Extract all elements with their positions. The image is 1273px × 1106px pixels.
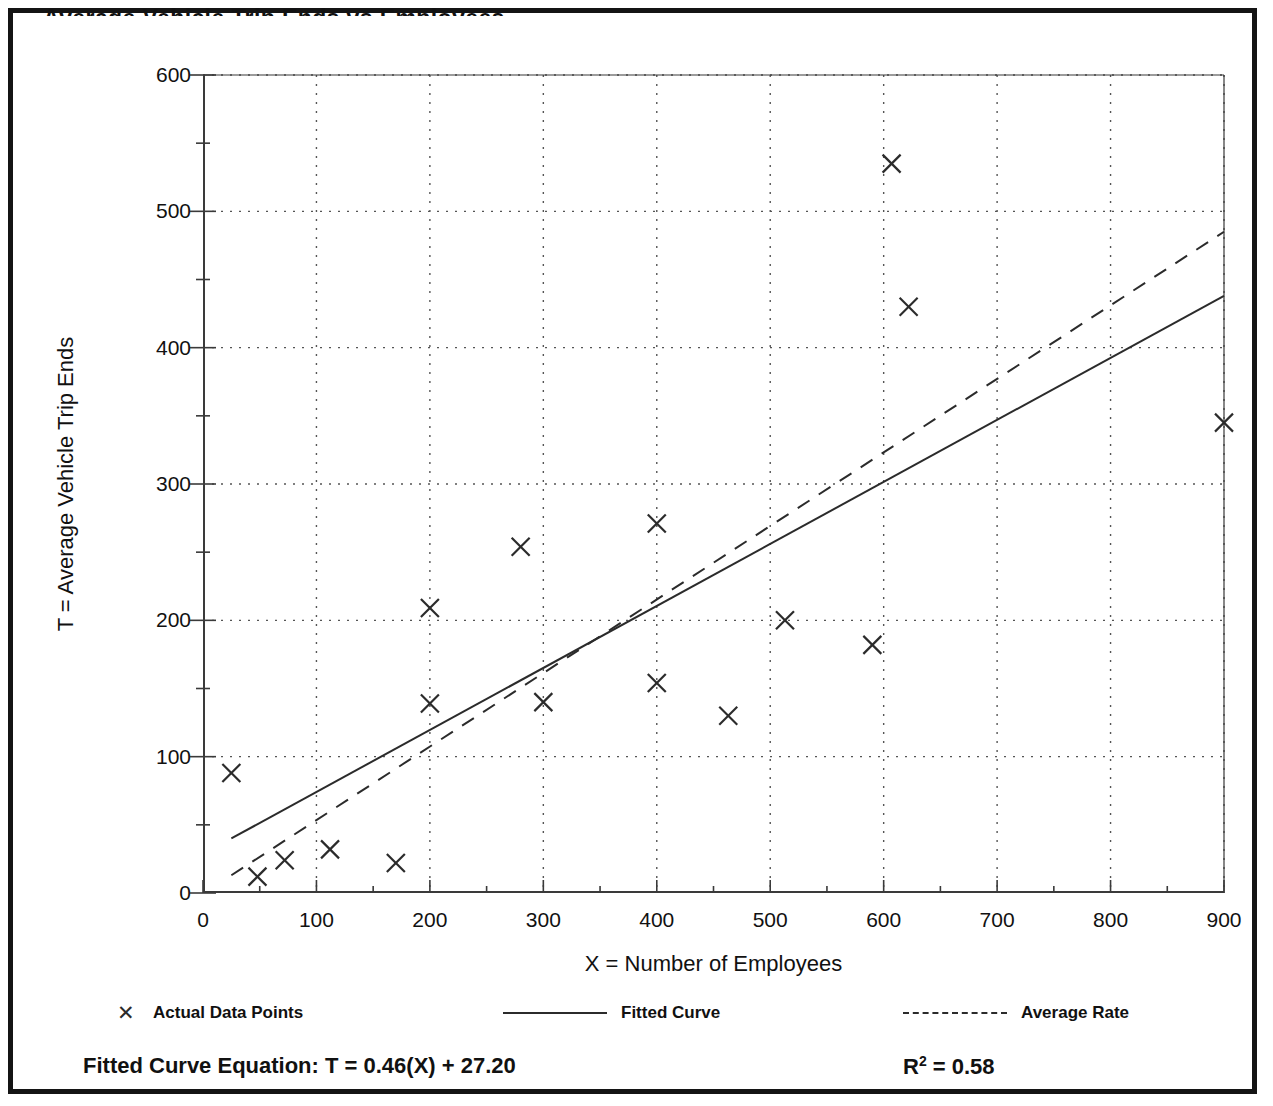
footer-row: Fitted Curve Equation: T = 0.46(X) + 27.… <box>83 1053 1223 1087</box>
y-axis-tick-label: 400 <box>156 336 191 360</box>
x-axis-tick-label: 300 <box>526 908 561 932</box>
x-axis-tick-label: 500 <box>753 908 788 932</box>
x-marker-icon: ✕ <box>113 1004 139 1022</box>
legend-item-label: Actual Data Points <box>153 1003 303 1023</box>
chart-page: Average Vehicle Trip Ends vs Employees T… <box>0 0 1273 1106</box>
data-point-marker <box>534 693 552 711</box>
legend-item[interactable]: ✕Actual Data Points <box>113 998 303 1028</box>
data-point-marker <box>321 840 339 858</box>
x-axis-tick-labels: 0100200300400500600700800900 <box>203 908 1224 936</box>
data-point-marker <box>776 611 794 629</box>
y-axis-tick-label: 100 <box>156 745 191 769</box>
data-point-marker <box>222 764 240 782</box>
x-axis-tick-label: 800 <box>1093 908 1128 932</box>
x-axis-tick-label: 600 <box>866 908 901 932</box>
dashed-line-icon <box>903 1004 1007 1022</box>
data-point-marker <box>421 599 439 617</box>
r-squared-exponent: 2 <box>919 1053 927 1069</box>
x-axis-tick-label: 700 <box>980 908 1015 932</box>
y-axis-tick-label: 300 <box>156 472 191 496</box>
x-axis-tick-label: 900 <box>1206 908 1241 932</box>
r-squared-symbol: R <box>903 1054 919 1079</box>
data-point-marker <box>512 538 530 556</box>
data-point-marker <box>276 851 294 869</box>
y-axis-tick-label: 0 <box>179 881 191 905</box>
chart-legend: ✕Actual Data PointsFitted CurveAverage R… <box>113 998 1223 1028</box>
r-squared-value: R2 = 0.58 <box>903 1053 995 1080</box>
fitted-curve-line <box>231 296 1224 839</box>
x-axis-tick-label: 0 <box>197 908 209 932</box>
r-squared-number: = 0.58 <box>927 1054 995 1079</box>
data-point-marker <box>648 674 666 692</box>
y-axis-tick-label: 200 <box>156 608 191 632</box>
x-axis-tick-label: 100 <box>299 908 334 932</box>
legend-item[interactable]: Average Rate <box>903 998 1129 1028</box>
x-axis-tick-label: 400 <box>639 908 674 932</box>
y-axis-tick-label: 600 <box>156 63 191 87</box>
data-point-marker <box>387 854 405 872</box>
x-axis-title: X = Number of Employees <box>203 951 1224 977</box>
fitted-curve-equation: Fitted Curve Equation: T = 0.46(X) + 27.… <box>83 1053 516 1079</box>
y-axis-title: T = Average Vehicle Trip Ends <box>51 75 81 893</box>
trend-lines-group <box>231 232 1224 875</box>
data-point-marker <box>900 298 918 316</box>
data-point-marker <box>883 155 901 173</box>
clipped-figure-title-text: Average Vehicle Trip Ends vs Employees <box>43 7 1273 16</box>
clipped-figure-title: Average Vehicle Trip Ends vs Employees <box>13 7 1273 16</box>
x-axis-tick-label: 200 <box>412 908 447 932</box>
data-point-marker <box>863 636 881 654</box>
data-points-group <box>222 155 1233 886</box>
average-rate-line <box>231 232 1224 875</box>
legend-item-label: Average Rate <box>1021 1003 1129 1023</box>
plot-wrapper <box>203 75 1224 893</box>
legend-item[interactable]: Fitted Curve <box>503 998 720 1028</box>
data-point-marker <box>719 707 737 725</box>
y-axis-tick-labels: 0100200300400500600 <box>123 75 191 893</box>
data-point-marker <box>248 868 266 886</box>
figure-frame: Average Vehicle Trip Ends vs Employees T… <box>8 8 1257 1094</box>
plot-canvas <box>203 75 1224 893</box>
legend-item-label: Fitted Curve <box>621 1003 720 1023</box>
solid-line-icon <box>503 1004 607 1022</box>
y-axis-tick-label: 500 <box>156 199 191 223</box>
